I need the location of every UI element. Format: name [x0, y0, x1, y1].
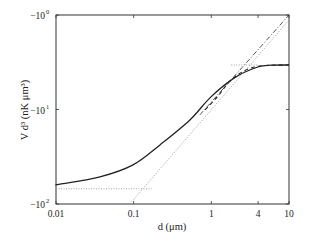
y-tick-label: −10	[30, 106, 45, 116]
y-tick-base: −10	[30, 106, 45, 116]
x-tick-label: 0.01	[48, 209, 65, 219]
chart: 0.010.11410−100−101−102 d (μm) V d³ (nK …	[0, 0, 312, 241]
x-tick-label: 10	[284, 209, 294, 219]
x-tick-label: 0.1	[128, 209, 140, 219]
y-tick-label: −10	[30, 200, 45, 210]
y-tick-base: −10	[30, 11, 45, 21]
series-layer	[56, 15, 289, 204]
y-tick-label: −10	[30, 11, 45, 21]
tick-layer: 0.010.11410−100−101−102	[30, 8, 294, 219]
plot-frame	[56, 15, 289, 204]
y-tick-exponent: 1	[46, 103, 49, 110]
y-tick-exponent: 0	[46, 8, 49, 15]
x-tick-label: 1	[209, 209, 214, 219]
series-long-range-limit	[130, 20, 289, 204]
x-tick-label: 4	[256, 209, 261, 219]
x-axis-label: d (μm)	[158, 221, 187, 233]
y-axis-label: V d³ (nK μm³)	[19, 79, 31, 140]
series-full	[56, 65, 289, 185]
y-tick-base: −10	[30, 200, 45, 210]
y-tick-exponent: 2	[46, 197, 49, 204]
